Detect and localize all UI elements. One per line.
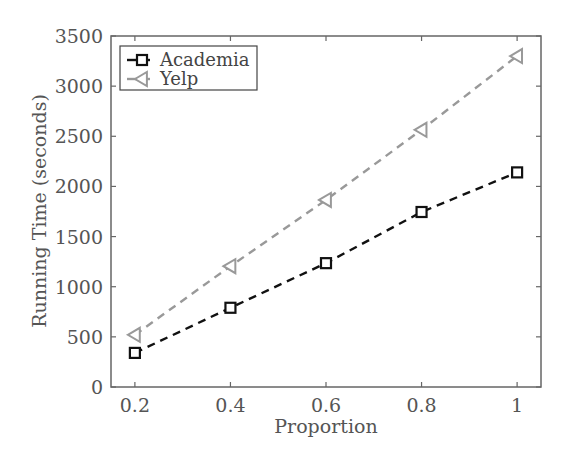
data-point-marker [128, 328, 140, 342]
y-tick-label: 2500 [55, 125, 103, 147]
data-point-marker [321, 258, 331, 268]
line-chart: 0500100015002000250030003500 0.20.40.60.… [0, 0, 569, 463]
y-tick-label: 2000 [55, 175, 103, 197]
data-point-marker [223, 259, 235, 273]
legend: AcademiaYelp [120, 46, 257, 90]
data-point-marker [130, 348, 140, 358]
y-tick-label: 3000 [55, 75, 103, 97]
legend-label: Academia [159, 49, 250, 70]
y-tick-label: 1000 [55, 276, 103, 298]
y-tick-label: 0 [91, 376, 103, 398]
y-axis-label: Running Time (seconds) [28, 94, 50, 328]
y-tick-label: 3500 [55, 25, 103, 47]
y-tick-label: 1500 [55, 226, 103, 248]
x-tick-label: 0.8 [406, 394, 436, 416]
data-series [128, 49, 522, 358]
x-tick-label: 0.2 [120, 394, 150, 416]
x-tick-label: 0.4 [215, 394, 245, 416]
data-point-marker [417, 207, 427, 217]
legend-marker-icon [137, 55, 147, 65]
data-point-marker [225, 303, 235, 313]
data-point-marker [415, 123, 427, 137]
legend-label: Yelp [159, 68, 198, 89]
y-tick-label: 500 [67, 326, 103, 348]
x-axis-label: Proportion [274, 415, 377, 437]
x-tick-label: 1 [511, 394, 523, 416]
x-axis-ticks: 0.20.40.60.81 [120, 36, 523, 416]
data-point-marker [512, 167, 522, 177]
x-tick-label: 0.6 [311, 394, 341, 416]
